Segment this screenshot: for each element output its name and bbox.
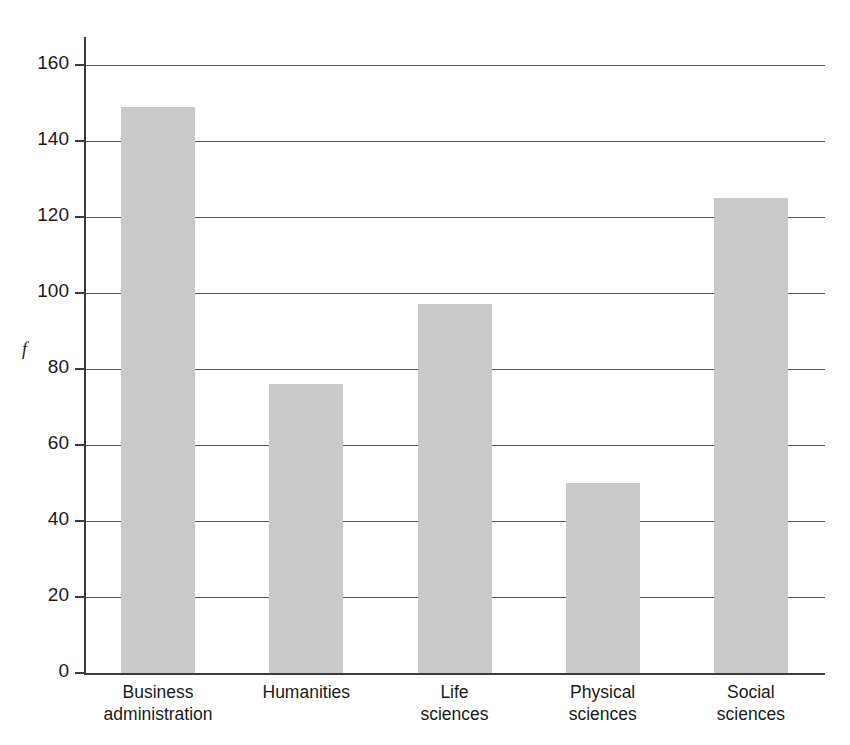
gridline-160 <box>84 65 825 66</box>
cropped-caption <box>60 736 760 745</box>
bar-humanities <box>269 384 343 673</box>
y-tick-label-160: 160 <box>23 52 69 74</box>
y-tick-label-20: 20 <box>23 584 69 606</box>
y-tick-label-80: 80 <box>23 356 69 378</box>
bar-chart-figure: f 020406080100120140160Business administ… <box>0 0 850 745</box>
y-tick-60 <box>75 444 84 446</box>
y-tick-120 <box>75 216 84 218</box>
y-tick-100 <box>75 292 84 294</box>
y-axis-line <box>84 37 86 675</box>
category-label-business-administration: Business administration <box>84 681 232 725</box>
bar-life-sciences <box>418 304 492 673</box>
y-tick-80 <box>75 368 84 370</box>
y-tick-40 <box>75 520 84 522</box>
y-tick-160 <box>75 64 84 66</box>
category-label-physical-sciences: Physical sciences <box>529 681 677 725</box>
y-tick-0 <box>75 672 84 674</box>
category-label-humanities: Humanities <box>232 681 380 703</box>
y-tick-140 <box>75 140 84 142</box>
bar-social-sciences <box>714 198 788 673</box>
gridline-140 <box>84 141 825 142</box>
bar-physical-sciences <box>566 483 640 673</box>
y-tick-label-60: 60 <box>23 432 69 454</box>
category-label-social-sciences: Social sciences <box>677 681 825 725</box>
y-tick-label-120: 120 <box>23 204 69 226</box>
y-tick-20 <box>75 596 84 598</box>
y-tick-label-100: 100 <box>23 280 69 302</box>
category-label-life-sciences: Life sciences <box>380 681 528 725</box>
plot-area <box>84 37 825 673</box>
y-tick-label-0: 0 <box>23 660 69 682</box>
x-axis-line <box>84 673 825 675</box>
y-tick-label-40: 40 <box>23 508 69 530</box>
bar-business-administration <box>121 107 195 673</box>
y-tick-label-140: 140 <box>23 128 69 150</box>
